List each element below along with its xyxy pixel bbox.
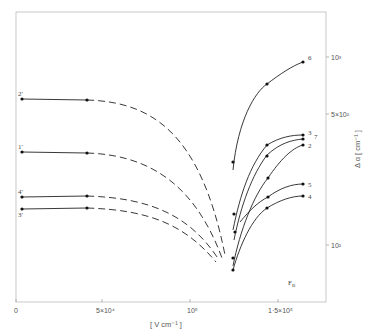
annotation-fb: FB [288,279,296,288]
label-3prime: 3′ [18,211,24,219]
y-tick-100: 10² [331,242,342,249]
left-points [20,97,88,210]
x-axis [16,299,278,302]
y-axis [326,57,329,245]
label-7: 7 [314,133,318,141]
chart: 0 5×10⁴ 10⁵ 1·5×10⁵ [ V cm⁻¹ ] 10³ 5×10²… [0,0,373,336]
x-tick-1e5: 10⁵ [187,307,198,314]
y-tick-500: 5×10² [331,111,350,118]
label-6: 6 [308,54,312,62]
left-curves-solid [22,99,87,209]
right-curves [233,62,303,270]
x-tick-1-5e5: 1·5×10⁵ [268,307,293,314]
left-curves-dashed [87,100,225,262]
label-2: 2 [308,142,312,150]
label-1prime: 1′ [18,143,24,151]
y-tick-1000: 10³ [331,54,342,61]
plot-frame [16,12,326,302]
x-axis-title: [ V cm⁻¹ ] [150,320,182,329]
label-4: 4 [308,193,312,201]
label-3: 3 [308,129,312,137]
x-tick-0: 0 [14,307,18,314]
label-4prime: 4′ [18,188,24,196]
right-points [231,60,304,271]
label-5: 5 [308,181,312,189]
label-2prime: 2′ [18,90,24,98]
y-axis-title: Δ α [ cm⁻¹ ] [353,130,362,168]
annotation-fb-sub: B [292,283,296,288]
x-tick-5e4: 5×10⁴ [96,307,115,314]
